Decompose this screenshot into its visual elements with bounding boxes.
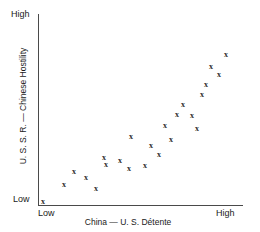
data-point: x (128, 132, 135, 141)
data-point: x (162, 121, 169, 130)
data-point: x (93, 184, 100, 193)
data-point: x (222, 50, 229, 59)
data-point: x (203, 80, 210, 89)
data-point: x (199, 90, 206, 99)
data-point: x (188, 111, 195, 120)
data-point: x (216, 70, 223, 79)
data-point: x (126, 164, 133, 173)
data-point: x (142, 161, 149, 170)
data-point: x (179, 100, 186, 109)
data-point: x (82, 173, 89, 182)
plot-area: xxxxxxxxxxxxxxxxxxxxxxxx (0, 0, 260, 232)
data-point: x (117, 156, 124, 165)
data-point: x (168, 135, 175, 144)
data-point: x (147, 141, 154, 150)
data-point: x (61, 180, 68, 189)
data-point: x (39, 197, 46, 206)
data-point: x (103, 160, 110, 169)
data-point: x (194, 124, 201, 133)
scatter-plot-figure: High Low Low High U. S. S. R. — Chinese … (0, 0, 260, 232)
data-point: x (155, 150, 162, 159)
data-point: x (173, 110, 180, 119)
data-point: x (208, 62, 215, 71)
data-point: x (71, 167, 78, 176)
